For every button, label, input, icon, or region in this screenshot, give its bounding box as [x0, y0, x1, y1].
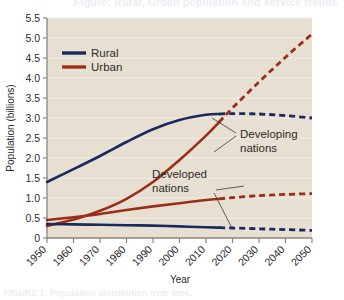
x-axis-label: Year [170, 274, 191, 285]
y-tick-label: 4.0 [25, 72, 40, 84]
x-tick-label: 1970 [76, 243, 101, 268]
x-tick-label: 2010 [182, 243, 207, 268]
annotation-developing-line2: nations [240, 142, 277, 154]
x-tick-label: 1980 [103, 243, 128, 268]
x-tick-label: 2040 [262, 243, 287, 268]
y-tick-labels: 00.51.01.52.02.53.03.54.04.55.05.5 [25, 12, 40, 244]
legend-label-rural: Rural [91, 47, 118, 59]
annotation-developing-line1: Developing [240, 128, 298, 140]
y-tick-label: 5.0 [25, 32, 40, 44]
y-tick-label: 0.5 [25, 212, 40, 224]
y-tick-label: 5.5 [25, 12, 40, 24]
x-tick-label: 1950 [23, 243, 48, 268]
legend-label-urban: Urban [91, 61, 122, 73]
x-tick-label: 2050 [288, 243, 313, 268]
x-tick-label: 2020 [209, 243, 234, 268]
y-tick-label: 0 [34, 232, 40, 244]
x-tick-labels: 1950196019701980199020002010202020302040… [23, 243, 313, 268]
annotation-developed-line2: nations [152, 182, 189, 194]
y-tick-label: 4.5 [25, 52, 40, 64]
y-tick-label: 3.5 [25, 92, 40, 104]
x-tick-label: 1990 [129, 243, 154, 268]
y-tick-label: 2.0 [25, 152, 40, 164]
population-line-chart: 00.51.01.52.02.53.03.54.04.55.05.5 19501… [0, 0, 344, 300]
x-tick-label: 1960 [50, 243, 75, 268]
y-tick-label: 3.0 [25, 112, 40, 124]
x-tick-label: 2030 [235, 243, 260, 268]
annotation-developed-line1: Developed [152, 168, 207, 180]
y-tick-label: 2.5 [25, 132, 40, 144]
y-axis-label: Population (billions) [5, 84, 16, 171]
x-tick-label: 2000 [156, 243, 181, 268]
y-tick-label: 1.0 [25, 192, 40, 204]
figure-container: Figure: Rural, Urban population and serv… [0, 0, 344, 300]
y-tick-label: 1.5 [25, 172, 40, 184]
